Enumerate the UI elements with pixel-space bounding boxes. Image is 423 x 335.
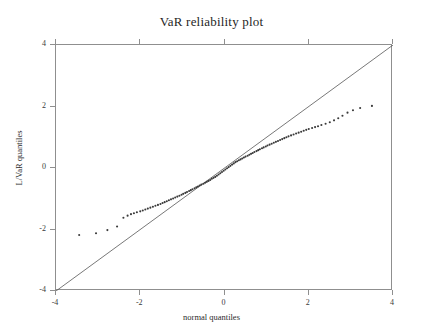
data-point bbox=[209, 179, 211, 181]
data-point bbox=[174, 196, 176, 198]
y-tick-label: -4 bbox=[30, 285, 46, 294]
y-tick-mark bbox=[50, 106, 55, 107]
data-point bbox=[233, 162, 235, 164]
data-point bbox=[275, 141, 277, 143]
data-point bbox=[273, 142, 275, 144]
x-tick-mark-top bbox=[308, 39, 309, 44]
y-axis-label: L/VaR quantiles bbox=[14, 113, 24, 203]
data-point bbox=[226, 167, 228, 169]
data-point bbox=[279, 139, 281, 141]
data-point bbox=[295, 133, 297, 135]
data-point bbox=[214, 176, 216, 178]
data-point bbox=[245, 156, 247, 158]
data-point bbox=[170, 198, 172, 200]
data-point bbox=[290, 134, 292, 136]
data-point bbox=[285, 136, 287, 138]
data-point bbox=[229, 165, 231, 167]
x-tick-mark bbox=[55, 290, 56, 295]
x-tick-label: 0 bbox=[212, 298, 236, 307]
data-point bbox=[341, 115, 343, 117]
data-point bbox=[176, 196, 178, 198]
data-point bbox=[164, 201, 166, 203]
data-point bbox=[277, 140, 279, 142]
x-tick-mark-top bbox=[139, 39, 140, 44]
data-point bbox=[231, 164, 233, 166]
data-point bbox=[337, 117, 339, 119]
y-tick-label: 2 bbox=[30, 101, 46, 110]
y-tick-label: 0 bbox=[30, 162, 46, 171]
data-point bbox=[130, 213, 132, 215]
data-point bbox=[371, 105, 373, 107]
x-tick-mark bbox=[139, 290, 140, 295]
x-tick-mark bbox=[308, 290, 309, 295]
x-tick-mark-top bbox=[392, 39, 393, 44]
data-point bbox=[219, 172, 221, 174]
data-point bbox=[172, 197, 174, 199]
data-point bbox=[182, 193, 184, 195]
data-point bbox=[144, 208, 146, 210]
x-tick-label: -4 bbox=[43, 298, 67, 307]
x-tick-label: -2 bbox=[127, 298, 151, 307]
data-point bbox=[300, 131, 302, 133]
data-point bbox=[159, 203, 161, 205]
data-point bbox=[133, 212, 135, 214]
y-tick-label: -2 bbox=[30, 224, 46, 233]
data-point bbox=[259, 148, 261, 150]
data-point bbox=[303, 130, 305, 132]
data-point bbox=[308, 128, 310, 130]
data-point bbox=[162, 202, 164, 204]
data-point bbox=[314, 126, 316, 128]
data-point bbox=[263, 146, 265, 148]
data-point bbox=[157, 204, 159, 206]
data-point bbox=[305, 129, 307, 131]
y-tick-mark bbox=[50, 229, 55, 230]
data-point bbox=[329, 121, 331, 123]
data-point bbox=[154, 205, 156, 207]
data-point bbox=[147, 208, 149, 210]
data-point bbox=[352, 109, 354, 111]
data-point bbox=[152, 206, 154, 208]
data-point bbox=[200, 184, 202, 186]
data-point bbox=[281, 138, 283, 140]
x-tick-mark-top bbox=[224, 39, 225, 44]
data-point bbox=[283, 137, 285, 139]
plot-area bbox=[55, 44, 392, 290]
chart-root: VaR reliability plot -4-2024-4-2024 norm… bbox=[0, 0, 423, 335]
data-point bbox=[136, 211, 138, 213]
data-point bbox=[223, 170, 225, 172]
data-point bbox=[178, 195, 180, 197]
data-point bbox=[221, 171, 223, 173]
data-point bbox=[333, 119, 335, 121]
data-point bbox=[218, 173, 220, 175]
data-point bbox=[266, 145, 268, 147]
data-point bbox=[298, 132, 300, 134]
x-axis-label: normal quantiles bbox=[0, 312, 423, 322]
scatter-series bbox=[78, 105, 373, 236]
data-point bbox=[287, 135, 289, 137]
data-point bbox=[142, 209, 144, 211]
x-tick-label: 2 bbox=[296, 298, 320, 307]
data-point bbox=[191, 188, 193, 190]
data-point bbox=[253, 151, 255, 153]
data-point bbox=[224, 168, 226, 170]
data-point bbox=[166, 200, 168, 202]
data-point bbox=[216, 175, 218, 177]
chart-title: VaR reliability plot bbox=[0, 14, 423, 30]
data-point bbox=[271, 143, 273, 145]
data-point bbox=[168, 199, 170, 201]
data-point bbox=[149, 207, 151, 209]
data-point bbox=[311, 127, 313, 129]
data-point bbox=[122, 217, 124, 219]
data-point bbox=[106, 229, 108, 231]
y-tick-mark bbox=[50, 290, 55, 291]
data-point bbox=[186, 191, 188, 193]
data-point bbox=[293, 133, 295, 135]
data-point bbox=[116, 225, 118, 227]
x-tick-mark-top bbox=[55, 39, 56, 44]
plot-canvas bbox=[56, 45, 393, 291]
data-point bbox=[269, 144, 271, 146]
data-point bbox=[346, 112, 348, 114]
y-tick-mark bbox=[50, 44, 55, 45]
x-tick-label: 4 bbox=[380, 298, 404, 307]
data-point bbox=[139, 210, 141, 212]
